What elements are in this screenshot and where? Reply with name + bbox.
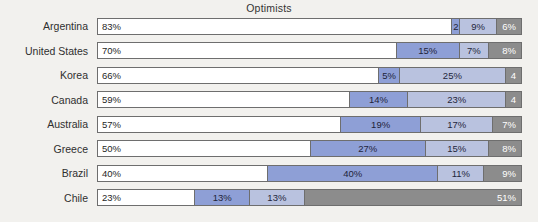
bar-segment: 83%	[97, 18, 452, 35]
bar-segment: 9%	[483, 165, 522, 182]
bar-segment: 13%	[249, 189, 305, 206]
bar-segment: 57%	[97, 116, 341, 133]
stacked-bar: 57%19%17%7%	[97, 116, 525, 133]
bar-segment: 9%	[459, 18, 498, 35]
bar-segment: 15%	[425, 140, 489, 157]
bar-segment: 5%	[378, 67, 399, 84]
bar-segment: 59%	[97, 91, 350, 108]
chart-row: Korea66%5%25%4	[0, 63, 538, 88]
bar-segment: 13%	[194, 189, 250, 206]
row-label-canada: Canada	[0, 95, 97, 106]
row-label-united-states: United States	[0, 46, 97, 57]
bar-segment: 8%	[488, 140, 522, 157]
segment-value-label: 14%	[350, 95, 408, 105]
chart-row: Greece50%27%15%8%	[0, 137, 538, 162]
stacked-bar: 70%15%7%8%	[97, 42, 525, 59]
segment-value-label: 51%	[305, 193, 521, 203]
bar-segment: 66%	[97, 67, 379, 84]
segment-value-label: 83%	[98, 22, 451, 32]
segment-value-label: 11%	[438, 169, 483, 179]
segment-value-label: 9%	[484, 169, 521, 179]
segment-value-label: 7%	[460, 46, 488, 56]
bar-segment: 4	[505, 67, 522, 84]
segment-value-label: 19%	[341, 120, 420, 130]
row-label-greece: Greece	[0, 144, 97, 155]
bar-segment: 4	[505, 91, 522, 108]
chart-row: United States70%15%7%8%	[0, 39, 538, 64]
segment-value-label: 40%	[268, 169, 437, 179]
chart-row: Argentina83%29%6%	[0, 14, 538, 39]
stacked-bar: 83%29%6%	[97, 18, 525, 35]
segment-value-label: 23%	[408, 95, 504, 105]
bar-segment: 8%	[488, 42, 522, 59]
bar-segment: 14%	[349, 91, 409, 108]
row-label-argentina: Argentina	[0, 21, 97, 32]
bar-segment: 6%	[496, 18, 522, 35]
bar-segment: 51%	[304, 189, 522, 206]
segment-value-label: 8%	[489, 144, 521, 154]
stacked-bar: 23%13%13%51%	[97, 189, 525, 206]
stacked-bar: 40%40%11%9%	[97, 165, 525, 182]
chart-row: Canada59%14%23%4	[0, 88, 538, 113]
bar-segment: 70%	[97, 42, 397, 59]
bar-segment: 7%	[459, 42, 489, 59]
chart-container: Optimists Argentina83%29%6%United States…	[0, 0, 538, 222]
segment-value-label: 15%	[397, 46, 459, 56]
row-label-korea: Korea	[0, 70, 97, 81]
segment-value-label: 27%	[311, 144, 425, 154]
segment-value-label: 59%	[98, 95, 349, 105]
chart-row: Chile23%13%13%51%	[0, 186, 538, 211]
chart-row: Australia57%19%17%7%	[0, 112, 538, 137]
bar-segment: 11%	[437, 165, 484, 182]
segment-value-label: 4	[506, 71, 521, 81]
chart-title: Optimists	[0, 2, 538, 14]
chart-rows: Argentina83%29%6%United States70%15%7%8%…	[0, 14, 538, 210]
segment-value-label: 8%	[489, 46, 521, 56]
bar-segment: 23%	[97, 189, 195, 206]
segment-value-label: 25%	[400, 71, 505, 81]
bar-segment: 19%	[340, 116, 421, 133]
segment-value-label: 23%	[98, 193, 194, 203]
segment-value-label: 7%	[493, 120, 521, 130]
segment-value-label: 13%	[195, 193, 249, 203]
bar-segment: 23%	[407, 91, 505, 108]
segment-value-label: 13%	[250, 193, 304, 203]
segment-value-label: 70%	[98, 46, 396, 56]
stacked-bar: 66%5%25%4	[97, 67, 525, 84]
segment-value-label: 5%	[379, 71, 398, 81]
segment-value-label: 66%	[98, 71, 378, 81]
row-label-australia: Australia	[0, 119, 97, 130]
bar-segment: 40%	[267, 165, 438, 182]
segment-value-label: 57%	[98, 120, 340, 130]
stacked-bar: 59%14%23%4	[97, 91, 525, 108]
segment-value-label: 4	[506, 95, 521, 105]
segment-value-label: 6%	[497, 22, 521, 32]
segment-value-label: 50%	[98, 144, 310, 154]
chart-row: Brazil40%40%11%9%	[0, 161, 538, 186]
segment-value-label: 40%	[98, 169, 267, 179]
stacked-bar: 50%27%15%8%	[97, 140, 525, 157]
bar-segment: 15%	[396, 42, 460, 59]
segment-value-label: 17%	[421, 120, 492, 130]
row-label-brazil: Brazil	[0, 168, 97, 179]
row-label-chile: Chile	[0, 193, 97, 204]
segment-value-label: 15%	[426, 144, 488, 154]
segment-value-label: 9%	[460, 22, 497, 32]
bar-segment: 27%	[310, 140, 426, 157]
bar-segment: 50%	[97, 140, 311, 157]
bar-segment: 7%	[492, 116, 522, 133]
bar-segment: 17%	[420, 116, 493, 133]
bar-segment: 40%	[97, 165, 268, 182]
bar-segment: 25%	[399, 67, 506, 84]
